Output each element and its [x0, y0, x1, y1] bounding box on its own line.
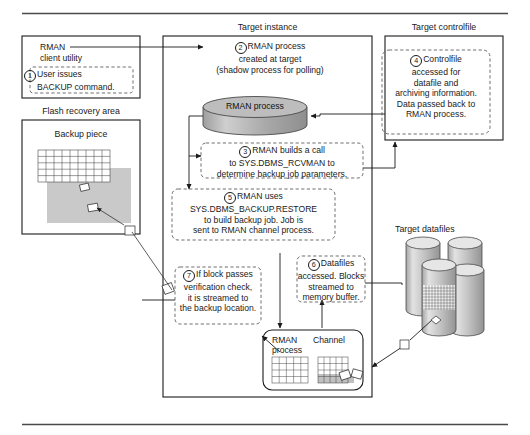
- step-4: 4Controlfile accessed for datafile and a…: [382, 54, 490, 120]
- step-2: 2RMAN process created at target (shadow …: [175, 41, 365, 75]
- rman-process-cylinder-label: RMAN process: [203, 101, 307, 112]
- step-6-line-2: accessed. Blocks: [298, 271, 364, 281]
- step-3: 3RMAN builds a call to SYS.DBMS_RCVMAN t…: [201, 145, 363, 179]
- step-5: 5RMAN uses SYS.DBMS_BACKUP.RESTORE to bu…: [172, 191, 335, 236]
- group-label-target-instance: Target instance: [163, 22, 372, 33]
- step-4-line-6: RMAN process.: [406, 109, 466, 119]
- channel-box-channel-label: Channel: [313, 335, 345, 346]
- step-2-line-2: created at target: [239, 54, 302, 64]
- step-5-line-2: SYS.DBMS_BACKUP.RESTORE: [190, 204, 317, 214]
- step-5-line-3: to build backup job. Job is: [204, 215, 303, 225]
- rman-client-line1: RMAN: [40, 42, 65, 53]
- step-7-line-1: If block passes: [196, 269, 253, 279]
- step-2-line-1: RMAN process: [248, 41, 306, 51]
- step-6-number: 6: [308, 259, 320, 271]
- diagram-canvas: Target instance Target controlfile Flash…: [0, 0, 530, 435]
- step-1-line-2: BACKUP command.: [37, 82, 115, 93]
- step-1-number: 1: [24, 70, 36, 82]
- step-7-number: 7: [183, 270, 195, 282]
- channel-box-rman-line2: process: [272, 345, 302, 356]
- step-1: 1User issues BACKUP command.: [24, 69, 139, 93]
- step-4-number: 4: [410, 55, 422, 67]
- group-label-flash-recovery-area: Flash recovery area: [22, 106, 140, 117]
- step-5-line-1: RMAN uses: [237, 191, 283, 201]
- step-4-line-1: Controlfile: [423, 54, 462, 64]
- step-2-number: 2: [235, 42, 247, 54]
- step-4-line-5: Data passed back to: [397, 99, 475, 109]
- step-3-line-1: RMAN builds a call: [252, 145, 325, 155]
- step-4-line-4: archiving information.: [395, 88, 477, 98]
- group-label-backup-piece: Backup piece: [22, 129, 140, 140]
- step-6-line-3: streamed to: [308, 282, 353, 292]
- step-6-line-4: memory buffer.: [302, 292, 359, 302]
- group-label-target-datafiles: Target datafiles: [395, 224, 513, 235]
- step-2-line-3: (shadow process for polling): [216, 65, 323, 75]
- step-1-line-1: User issues: [37, 69, 82, 79]
- backup-piece-artwork: [38, 150, 174, 294]
- rman-client-line2: client utility: [40, 53, 82, 64]
- step-7-line-4: the backup location.: [180, 303, 256, 313]
- step-5-line-4: sent to RMAN channel process.: [193, 225, 314, 235]
- step-3-line-2: to SYS.DBMS_RCVMAN to: [229, 158, 335, 168]
- target-datafiles-artwork: [406, 237, 484, 336]
- step-7-line-3: it is streamed to: [188, 293, 249, 303]
- step-3-line-3: determine backup job parameters.: [217, 169, 347, 179]
- step-6-line-1: Datafiles: [321, 258, 354, 268]
- step-7-line-2: verification check,: [184, 282, 252, 292]
- step-3-number: 3: [239, 146, 251, 158]
- step-4-line-3: datafile and: [414, 78, 458, 88]
- group-label-target-controlfile: Target controlfile: [385, 22, 503, 33]
- step-5-number: 5: [224, 192, 236, 204]
- step-7: 7If block passes verification check, it …: [174, 269, 262, 314]
- step-4-line-2: accessed for: [412, 67, 461, 77]
- step-6: 6Datafiles accessed. Blocks streamed to …: [295, 258, 367, 303]
